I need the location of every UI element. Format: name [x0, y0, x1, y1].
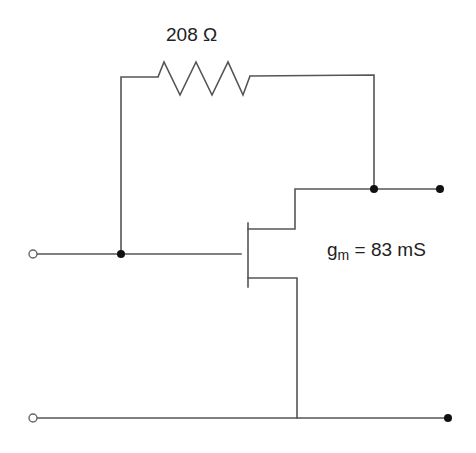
gm-subscript: m	[338, 247, 350, 263]
drain-wire	[248, 189, 440, 229]
input-terminal	[29, 250, 37, 258]
circuit-diagram: 208 Ω gm = 83 mS	[0, 0, 476, 453]
resistor-label: 208 Ω	[166, 24, 217, 45]
source-wire	[248, 278, 297, 418]
feedback-wire-right	[250, 75, 374, 189]
gm-symbol: g	[327, 239, 338, 260]
resistor-symbol	[158, 62, 250, 95]
drain-junction-dot	[370, 185, 378, 193]
ground-output-terminal	[444, 414, 452, 422]
gate-junction-dot	[117, 250, 125, 258]
output-terminal	[436, 185, 444, 193]
gm-value: = 83 mS	[349, 239, 426, 260]
feedback-wire-left	[121, 77, 158, 254]
ground-input-terminal	[29, 414, 37, 422]
transconductance-label: gm = 83 mS	[327, 239, 426, 263]
